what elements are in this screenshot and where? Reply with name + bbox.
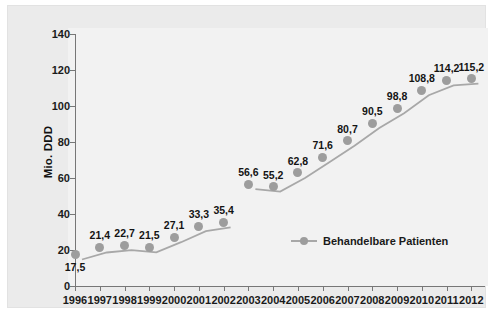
data-point-label: 90,5 (349, 106, 395, 117)
data-point-label: 55,2 (250, 170, 296, 181)
data-point-marker (145, 243, 154, 252)
data-point-label: 62,8 (275, 156, 321, 167)
chart-legend: Behandelbare Patienten (291, 234, 448, 248)
data-point-label: 27,1 (151, 220, 197, 231)
chart-figure: Mio. DDD 020406080100120140 199619971998… (0, 0, 493, 314)
data-point-marker (120, 241, 129, 250)
data-point-label: 35,4 (201, 205, 247, 216)
data-point-label: 21,5 (126, 230, 172, 241)
data-point-marker (244, 180, 253, 189)
data-point-label: 71,6 (300, 140, 346, 151)
data-point-label: 80,7 (325, 124, 371, 135)
data-point-marker (269, 182, 278, 191)
chart-panel: Mio. DDD 020406080100120140 199619971998… (7, 5, 486, 308)
legend-label-behandelbare-patienten: Behandelbare Patienten (323, 235, 448, 247)
data-point-marker (467, 74, 476, 83)
data-point-marker (71, 250, 80, 259)
data-point-label: 98,8 (374, 91, 420, 102)
data-point-label: 108,8 (399, 73, 445, 84)
legend-dot-icon (300, 237, 308, 245)
data-point-label: 17,5 (52, 262, 98, 273)
legend-marker-behandelbare-patienten (291, 240, 317, 242)
data-point-label: 115,2 (448, 62, 493, 73)
